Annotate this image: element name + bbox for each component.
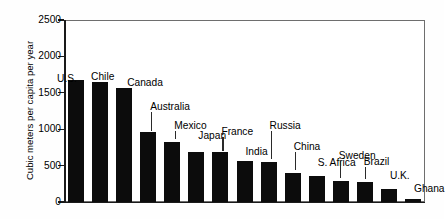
bar [309,176,325,202]
bar-value-label: France [221,126,253,137]
label-leader-line [295,152,296,170]
bar-value-label: India [246,146,268,157]
bar [381,189,397,202]
bar-value-label: Brazil [364,156,389,167]
y-tick-label: 2000 [1,50,61,61]
y-tick-label: 1000 [1,123,61,134]
bar [116,88,132,202]
bar-value-label: Russia [270,120,301,131]
bar [188,152,204,202]
y-tick-label: 500 [1,160,61,171]
label-leader-line [340,161,341,178]
bar [333,181,349,202]
bar-value-label: Chile [91,71,114,82]
bar-value-label: Australia [150,101,190,112]
bar [285,173,301,202]
bars-layer [64,20,425,202]
bar-value-label: U.S. [57,73,77,84]
label-leader-line [365,167,366,179]
bar [405,199,421,202]
bar [140,132,156,202]
y-tick-label: 0 [1,196,61,207]
bar [357,182,373,202]
bar [68,80,84,202]
bar [261,162,277,202]
y-tick-label: 1500 [1,87,61,98]
label-leader-line [222,137,223,151]
bar-value-label: U.K. [390,170,410,181]
bar-value-label: Ghana [414,183,445,194]
bar-value-label: China [294,141,321,152]
bar-value-label: Canada [127,77,163,88]
bar [164,142,180,202]
label-leader-line [271,131,272,159]
label-leader-line [175,131,176,139]
y-axis-title: Cubic meters per capita per year [24,21,35,201]
bar [92,82,108,202]
y-tick-label: 2500 [1,14,61,25]
bar [237,161,253,202]
bar [212,152,228,202]
label-leader-line [151,112,152,131]
